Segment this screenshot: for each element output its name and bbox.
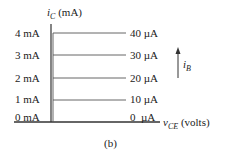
curve-label-10: 10 µA — [130, 93, 158, 105]
y-tick-0: 0 mA — [15, 111, 40, 123]
curve-label-20: 20 µA — [130, 72, 158, 84]
curve-label-30: 30 µA — [130, 49, 158, 61]
ib-label: iB — [183, 58, 191, 75]
figure-caption: (b) — [104, 137, 117, 149]
curve-label-40: 40 µA — [130, 27, 158, 39]
arrowhead-icon — [176, 47, 181, 54]
y-axis-label: iC (mA) — [47, 6, 82, 23]
curve-label-0: 0 µA — [130, 111, 155, 123]
y-tick-1: 1 mA — [15, 93, 40, 105]
curve-40uA — [53, 33, 126, 122]
y-tick-4: 4 mA — [15, 27, 40, 39]
y-tick-3: 3 mA — [15, 49, 40, 61]
x-axis-label: vCE (volts) — [163, 116, 210, 133]
y-tick-2: 2 mA — [15, 72, 40, 84]
